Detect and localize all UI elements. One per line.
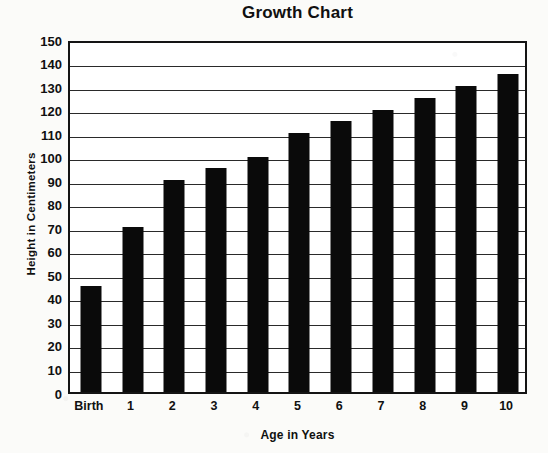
bar-slot — [487, 43, 529, 392]
bar-slot — [112, 43, 154, 392]
bar[interactable] — [206, 168, 227, 392]
bar-slot — [195, 43, 237, 392]
y-axis-tick-label: 0 — [2, 388, 62, 401]
x-axis-tick-label: 7 — [377, 399, 384, 414]
x-axis-tick-label: Birth — [74, 399, 103, 414]
bar[interactable] — [289, 133, 310, 392]
bar[interactable] — [372, 110, 393, 392]
bar-slot — [237, 43, 279, 392]
bar[interactable] — [80, 286, 101, 392]
bar-slot — [404, 43, 446, 392]
plot-area — [68, 41, 527, 394]
x-axis-title: Age in Years — [68, 428, 527, 442]
bar[interactable] — [456, 86, 477, 392]
y-axis-tick-label: 140 — [2, 58, 62, 71]
y-axis-tick-label: 130 — [2, 82, 62, 95]
x-axis-tick-label: 5 — [294, 399, 301, 414]
bar[interactable] — [331, 121, 352, 392]
bar[interactable] — [414, 98, 435, 392]
bar-slot — [320, 43, 362, 392]
x-axis-tick-label: 3 — [211, 399, 218, 414]
x-axis-tick-label: 2 — [169, 399, 176, 414]
bar-slot — [362, 43, 404, 392]
x-axis-tick-label: 6 — [336, 399, 343, 414]
bar-slot — [153, 43, 195, 392]
chart-title: Growth Chart — [68, 3, 527, 23]
y-axis-tick-label: 150 — [2, 35, 62, 48]
bar[interactable] — [498, 74, 519, 392]
bar-slot — [446, 43, 488, 392]
y-axis-title: Height in Centimeters — [25, 114, 37, 314]
bar-slot — [279, 43, 321, 392]
bar-slot — [70, 43, 112, 392]
y-axis-tick-label: 10 — [2, 364, 62, 377]
bar[interactable] — [247, 157, 268, 392]
x-axis-tick-labels: Birth12345678910 — [68, 399, 527, 419]
bars-layer — [70, 43, 525, 392]
bar[interactable] — [122, 227, 143, 392]
x-axis-tick-label: 1 — [127, 399, 134, 414]
y-axis-tick-label: 20 — [2, 340, 62, 353]
x-axis-tick-label: 9 — [461, 399, 468, 414]
y-axis-tick-label: 30 — [2, 317, 62, 330]
x-axis-tick-label: 10 — [499, 399, 513, 414]
bar[interactable] — [164, 180, 185, 392]
x-axis-tick-label: 4 — [252, 399, 259, 414]
x-axis-tick-label: 8 — [419, 399, 426, 414]
